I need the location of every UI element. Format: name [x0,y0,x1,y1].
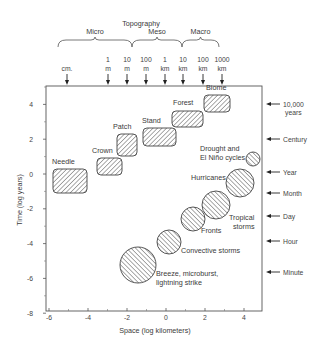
phenomenon-label-line2: lightning strike [156,278,202,287]
arrowhead-icon [266,214,271,218]
top-marker-value: 100 [140,56,152,63]
circle-phenomenon [226,169,254,197]
scale-group-label: Meso [148,27,166,36]
atmospheric-phenomena-circles: Drought andEl Niño cyclesHurricanesTropi… [120,144,260,287]
x-tick-label: 4 [242,314,246,321]
phenomenon-label: Hurricanes [191,173,226,182]
arrowhead-icon [201,80,205,85]
y-tick-label: -2 [27,205,33,212]
circle-phenomenon [157,230,181,254]
top-marker-value: 1 [106,56,110,63]
x-tick-label: -2 [124,314,130,321]
box-label: Biome [206,83,226,92]
scale-group-label: Macro [191,27,211,36]
circle-phenomenon [120,247,156,283]
box-stand [143,128,176,146]
y-tick-label: -4 [27,240,33,247]
arrowhead-icon [163,80,167,85]
box-label: Forest [173,98,193,107]
top-marker-unit: m [143,65,149,72]
scale-group-braces: MicroMesoMacro [58,27,219,47]
scale-group-label: Micro [86,27,104,36]
circle-phenomenon [202,191,230,219]
arrowhead-icon [144,80,148,85]
phenomenon-label: Breeze, microburst, [156,269,218,278]
top-distance-markers: cm.1m10m100m1km10km100km1000km [62,56,230,85]
box-label: Needle [52,157,75,166]
top-marker-value: 100 [197,56,209,63]
x-axis-label: Space (log kilometers) [119,326,191,335]
box-biome [204,95,230,112]
x-tick-label: -6 [46,314,52,321]
arrowhead-icon [266,170,271,174]
x-tick-label: 2 [203,314,207,321]
right-time-markers: 10,000yearsCenturyYearMonthDayHourMinute [266,101,307,276]
y-tick-label: 2 [29,136,33,143]
arrowhead-icon [266,137,271,141]
arrowhead-icon [266,191,271,195]
top-marker-unit: m [124,65,130,72]
arrowhead-icon [266,102,271,106]
top-marker-value: 1 [163,56,167,63]
top-marker-value: 10 [123,56,131,63]
y-tick-label: -6 [27,275,33,282]
phenomenon-label: Convective storms [181,246,241,255]
phenomenon-label: Tropical [229,213,255,222]
x-tick-label: -4 [85,314,91,321]
brace-meso [132,37,182,47]
brace-macro [182,37,219,47]
time-marker-label: Year [283,169,297,176]
time-marker-label: Minute [283,269,304,276]
phenomenon-label-line2: storms [233,222,255,231]
top-marker-unit: km [198,65,207,72]
top-marker-value: 1000 [214,56,229,63]
space-time-diagram: Topography MicroMesoMacro cm.1m10m100m1k… [0,0,318,350]
arrowhead-icon [266,270,271,274]
box-label: Crown [92,146,113,155]
box-label: Patch [113,122,131,131]
time-marker-label: Day [283,213,296,221]
arrowhead-icon [106,80,110,85]
top-marker-value: 10 [179,56,187,63]
time-marker-label: 10,000 [283,101,304,108]
arrowhead-icon [65,80,69,85]
y-tick-label: -8 [27,310,33,317]
time-marker-label: Month [283,190,302,197]
box-forest [172,111,203,127]
x-tick-label: 0 [164,314,168,321]
box-label: Stand [142,116,161,125]
y-axis-ticks: 420-2-4-6-8 [27,87,46,317]
y-tick-label: 4 [29,101,33,108]
arrowhead-icon [181,80,185,85]
box-crown [97,158,122,175]
y-axis-label: Time (log years) [15,174,24,226]
top-marker-unit: m [105,65,111,72]
brace-micro [58,37,132,47]
circle-phenomenon [246,152,260,166]
phenomenon-label: Drought and [200,144,240,153]
top-marker-unit: km [217,65,226,72]
box-needle [53,169,87,193]
top-marker-unit: km [178,65,187,72]
arrowhead-icon [266,239,271,243]
time-marker-label: Century [283,136,307,144]
top-marker-unit: cm. [62,65,73,72]
box-patch [117,134,137,156]
phenomenon-label-line2: El Niño cycles [200,153,246,162]
x-axis-ticks: -6-4-2024 [46,308,246,321]
time-marker-label: Hour [283,238,298,245]
arrowhead-icon [125,80,129,85]
phenomenon-label: Fronts [201,226,222,235]
y-tick-label: 0 [29,171,33,178]
top-marker-unit: km [160,65,169,72]
time-marker-label-line2: years [285,109,302,117]
